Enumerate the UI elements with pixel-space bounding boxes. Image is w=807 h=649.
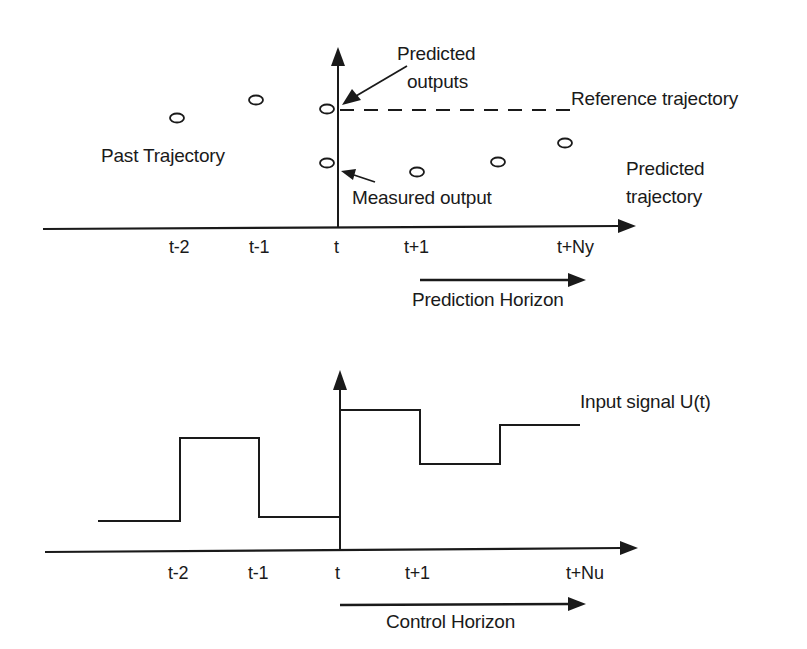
top-tick-t-minus-1: t-1 — [249, 238, 269, 256]
top-tick-t: t — [334, 238, 339, 256]
past-point-t-2 — [170, 114, 184, 123]
measured-output-label: Measured output — [352, 188, 492, 207]
bottom-tick-t-plus-1: t+1 — [405, 564, 430, 582]
top-diagram — [43, 47, 636, 287]
predicted-trajectory-label-line1: Predicted — [626, 159, 704, 178]
bottom-time-axis — [45, 548, 622, 552]
measured-output-callout-arrowhead-icon — [341, 169, 356, 180]
predicted-point-1 — [410, 168, 424, 177]
control-horizon-arrowhead-icon — [568, 597, 586, 611]
prediction-horizon-label: Prediction Horizon — [412, 290, 564, 309]
predicted-trajectory-label-line2: trajectory — [626, 187, 702, 206]
top-tick-t-minus-2: t-2 — [169, 238, 189, 256]
predicted-output-point-t — [320, 105, 334, 114]
top-tick-t-plus-ny: t+Ny — [557, 238, 594, 256]
measured-output-callout-line — [354, 175, 375, 182]
predicted-outputs-label-line1: Predicted — [397, 44, 475, 63]
bottom-value-axis-arrowhead-icon — [333, 370, 347, 390]
prediction-horizon-arrowhead-icon — [568, 273, 586, 287]
measured-output-point-t — [320, 159, 334, 168]
predicted-outputs-label-line2: outputs — [407, 72, 468, 91]
predicted-outputs-callout-arrowhead-icon — [342, 89, 361, 105]
past-trajectory-label: Past Trajectory — [101, 146, 225, 165]
bottom-time-axis-arrowhead-icon — [620, 541, 638, 555]
top-time-axis — [43, 226, 620, 229]
input-signal-label: Input signal U(t) — [580, 392, 711, 411]
predicted-outputs-callout-line — [356, 66, 407, 96]
bottom-tick-t-plus-nu: t+Nu — [566, 564, 604, 582]
input-signal-step-line — [98, 410, 580, 521]
control-horizon-label: Control Horizon — [386, 612, 515, 631]
bottom-tick-t: t — [335, 564, 340, 582]
bottom-tick-t-minus-2: t-2 — [168, 564, 188, 582]
top-tick-t-plus-1: t+1 — [404, 238, 429, 256]
top-value-axis-arrowhead-icon — [331, 47, 345, 66]
predicted-point-2 — [491, 158, 505, 167]
predicted-point-3 — [558, 139, 572, 148]
control-horizon-line — [340, 604, 572, 605]
past-point-t-1 — [249, 96, 263, 105]
reference-trajectory-label: Reference trajectory — [571, 89, 738, 108]
bottom-diagram — [45, 370, 638, 611]
top-time-axis-arrowhead-icon — [618, 219, 636, 233]
bottom-tick-t-minus-1: t-1 — [248, 564, 268, 582]
